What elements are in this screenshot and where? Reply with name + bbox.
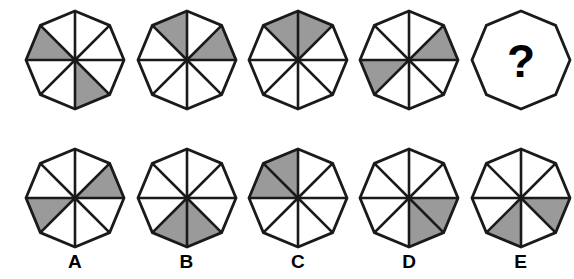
answer-option-a[interactable]: A [22, 146, 128, 264]
octagon-svg [246, 8, 350, 112]
octagon-svg [23, 8, 127, 112]
octagon-svg [357, 146, 461, 250]
octagon-svg [246, 146, 350, 250]
octagon-svg [469, 146, 573, 250]
octagon-figure [246, 146, 350, 250]
octagon-figure [23, 146, 127, 250]
sequence-figure-2[interactable] [133, 8, 239, 126]
sequence-figure-missing[interactable]: ? [468, 8, 574, 126]
answer-option-d[interactable]: D [356, 146, 462, 264]
answer-options-row: A B C D E [0, 146, 574, 271]
octagon-figure-question-mark: ? [469, 8, 573, 112]
octagon-svg [135, 8, 239, 112]
answer-option-label: E [514, 252, 527, 271]
answer-option-label: A [68, 252, 82, 271]
octagon-svg: ? [469, 8, 573, 112]
answer-option-label: D [402, 252, 416, 271]
octagon-figure [469, 146, 573, 250]
sequence-figure-4[interactable] [356, 8, 462, 126]
question-mark-glyph: ? [507, 35, 535, 87]
answer-option-b[interactable]: B [133, 146, 239, 264]
octagon-svg [135, 146, 239, 250]
answer-option-label: C [291, 252, 305, 271]
sequence-row: ? [0, 8, 574, 128]
sequence-figure-3[interactable] [245, 8, 351, 126]
octagon-figure [357, 146, 461, 250]
octagon-figure [135, 146, 239, 250]
answer-option-c[interactable]: C [245, 146, 351, 264]
octagon-svg [23, 146, 127, 250]
octagon-figure [135, 8, 239, 112]
octagon-figure [23, 8, 127, 112]
puzzle-canvas: ? A B C D E [0, 0, 574, 279]
octagon-svg [357, 8, 461, 112]
answer-option-label: B [179, 252, 193, 271]
octagon-figure [246, 8, 350, 112]
octagon-figure [357, 8, 461, 112]
answer-option-e[interactable]: E [468, 146, 574, 264]
sequence-figure-1[interactable] [22, 8, 128, 126]
